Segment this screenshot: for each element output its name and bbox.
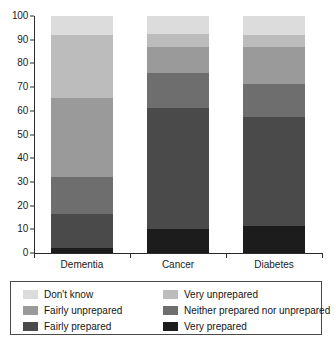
legend-item: Very prepared bbox=[163, 319, 247, 334]
bar-stack bbox=[147, 16, 209, 253]
y-tick-mark bbox=[30, 134, 34, 135]
y-tick-label: 100 bbox=[12, 11, 28, 21]
x-category-label: Cancer bbox=[162, 259, 194, 270]
y-tick-mark bbox=[30, 63, 34, 64]
y-tick-mark bbox=[30, 39, 34, 40]
x-tick-mark bbox=[130, 253, 131, 258]
y-tick-mark bbox=[30, 205, 34, 206]
legend: Don't knowVery unpreparedFairly unprepar… bbox=[10, 281, 322, 335]
bar-segment bbox=[51, 16, 113, 35]
bar-segment bbox=[243, 117, 305, 226]
bar-segment bbox=[51, 35, 113, 98]
legend-swatch bbox=[163, 306, 178, 315]
x-tick-mark bbox=[322, 253, 323, 258]
bar-segment bbox=[243, 84, 305, 117]
legend-item: Neither prepared nor unprepared bbox=[163, 303, 330, 318]
bar-segment bbox=[51, 177, 113, 214]
y-tick-mark bbox=[30, 181, 34, 182]
y-tick-label: 0 bbox=[23, 248, 28, 258]
y-tick-mark bbox=[30, 158, 34, 159]
bar-segment bbox=[147, 108, 209, 229]
y-tick-label: 60 bbox=[17, 106, 28, 116]
legend-swatch bbox=[23, 322, 38, 331]
y-tick-label: 20 bbox=[17, 201, 28, 211]
bars-layer bbox=[34, 16, 322, 253]
x-category-label: Dementia bbox=[61, 259, 104, 270]
y-tick-label: 90 bbox=[17, 35, 28, 45]
x-category-label: Diabetes bbox=[254, 259, 293, 270]
legend-swatch bbox=[163, 290, 178, 299]
bar-stack bbox=[51, 16, 113, 253]
stacked-bar-chart: 0102030405060708090100 DementiaCancerDia… bbox=[0, 0, 335, 349]
legend-label: Neither prepared nor unprepared bbox=[184, 305, 330, 316]
bar-segment bbox=[51, 98, 113, 177]
legend-label: Very unprepared bbox=[184, 289, 258, 300]
x-axis-line bbox=[34, 253, 322, 254]
bar-segment bbox=[51, 248, 113, 253]
legend-grid: Don't knowVery unpreparedFairly unprepar… bbox=[11, 282, 321, 334]
legend-item: Fairly prepared bbox=[23, 319, 111, 334]
bar-segment bbox=[243, 226, 305, 253]
y-tick-label: 30 bbox=[17, 177, 28, 187]
y-tick-mark bbox=[30, 16, 34, 17]
bar-stack bbox=[243, 16, 305, 253]
y-tick-label: 40 bbox=[17, 153, 28, 163]
y-tick-label: 80 bbox=[17, 58, 28, 68]
y-tick-mark bbox=[30, 110, 34, 111]
bar-segment bbox=[147, 229, 209, 253]
legend-swatch bbox=[163, 322, 178, 331]
bar-segment bbox=[147, 73, 209, 109]
legend-item: Don't know bbox=[23, 287, 93, 302]
legend-label: Very prepared bbox=[184, 321, 247, 332]
legend-swatch bbox=[23, 290, 38, 299]
bar-segment bbox=[243, 35, 305, 47]
bar-segment bbox=[243, 47, 305, 84]
bar-segment bbox=[243, 16, 305, 35]
y-axis: 0102030405060708090100 bbox=[0, 0, 30, 270]
x-tick-mark bbox=[226, 253, 227, 258]
y-tick-mark bbox=[30, 229, 34, 230]
bar-segment bbox=[147, 16, 209, 34]
bar-column bbox=[147, 16, 209, 253]
y-tick-label: 70 bbox=[17, 82, 28, 92]
y-tick-mark bbox=[30, 87, 34, 88]
legend-item: Fairly unprepared bbox=[23, 303, 122, 318]
legend-label: Don't know bbox=[44, 289, 93, 300]
legend-label: Fairly unprepared bbox=[44, 305, 122, 316]
y-tick-label: 50 bbox=[17, 130, 28, 140]
legend-item: Very unprepared bbox=[163, 287, 258, 302]
y-tick-label: 10 bbox=[17, 224, 28, 234]
legend-label: Fairly prepared bbox=[44, 321, 111, 332]
bar-segment bbox=[147, 47, 209, 73]
bar-column bbox=[243, 16, 305, 253]
bar-column bbox=[51, 16, 113, 253]
bar-segment bbox=[51, 214, 113, 248]
plot-area: 0102030405060708090100 DementiaCancerDia… bbox=[0, 0, 335, 270]
bar-segment bbox=[147, 34, 209, 47]
x-tick-mark bbox=[34, 253, 35, 258]
legend-swatch bbox=[23, 306, 38, 315]
